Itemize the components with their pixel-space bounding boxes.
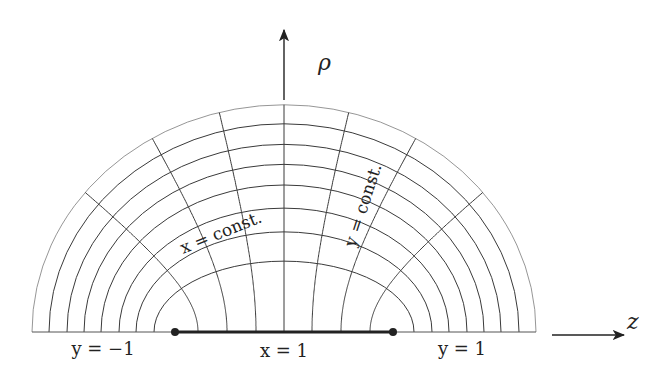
label-y-minus-1: y = −1: [70, 338, 134, 359]
label-x-const: x = const.: [177, 207, 265, 258]
z-axis-label: z: [626, 309, 639, 334]
prolate-spheroidal-diagram: ρ z y = −1 x = 1 y = 1 x = const. y = co…: [0, 0, 663, 384]
rho-axis-label: ρ: [317, 50, 331, 75]
right-focus-dot: [389, 328, 397, 336]
label-x-equals-1: x = 1: [260, 340, 308, 361]
hyperbola-y-const-line: [312, 113, 349, 332]
label-y-plus-1: y = 1: [437, 338, 486, 359]
left-focus-dot: [171, 328, 179, 336]
